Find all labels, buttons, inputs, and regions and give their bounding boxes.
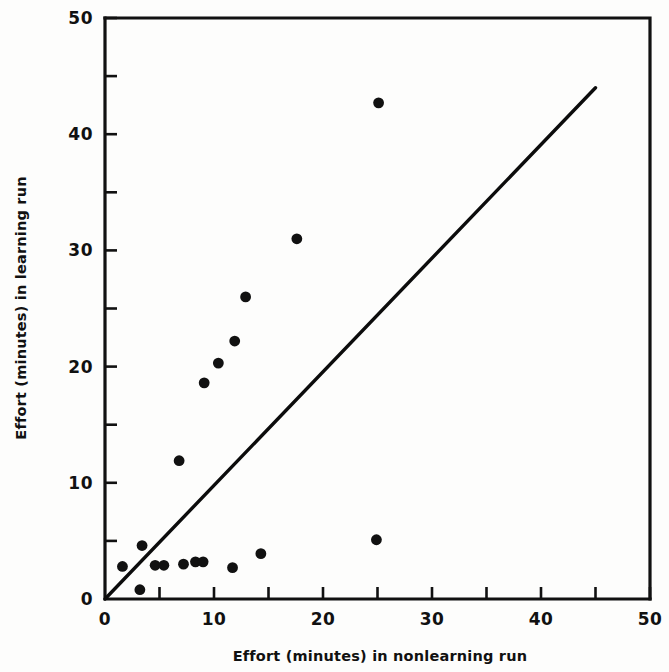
equality-reference-line xyxy=(105,88,596,599)
data-point xyxy=(255,548,266,559)
x-tick-label: 10 xyxy=(202,609,227,629)
x-tick-label: 50 xyxy=(638,609,663,629)
data-point xyxy=(291,233,302,244)
data-point xyxy=(117,561,128,572)
data-point xyxy=(137,540,148,551)
data-point xyxy=(158,560,169,571)
y-tick-label: 40 xyxy=(68,124,93,144)
y-tick-label: 50 xyxy=(68,8,93,28)
y-tick-label: 10 xyxy=(68,473,93,493)
data-point xyxy=(229,336,240,347)
y-tick-label: 0 xyxy=(81,589,93,609)
data-point xyxy=(174,455,185,466)
data-point xyxy=(371,534,382,545)
x-tick-label: 30 xyxy=(420,609,445,629)
x-tick-label: 0 xyxy=(99,609,111,629)
data-point xyxy=(178,559,189,570)
data-points-group xyxy=(117,97,384,595)
data-point xyxy=(373,97,384,108)
y-axis-tick-labels: 01020304050 xyxy=(68,8,93,609)
data-point xyxy=(213,358,224,369)
x-axis-tick-labels: 01020304050 xyxy=(99,609,663,629)
data-point xyxy=(134,584,145,595)
data-point xyxy=(227,562,238,573)
scatter-plot-figure: 01020304050 01020304050 Effort (minutes)… xyxy=(0,0,669,672)
y-tick-label: 20 xyxy=(68,357,93,377)
x-tick-label: 20 xyxy=(311,609,336,629)
y-axis-title: Effort (minutes) in learning run xyxy=(13,176,29,439)
y-tick-label: 30 xyxy=(68,240,93,260)
x-axis-title: Effort (minutes) in nonlearning run xyxy=(233,648,528,664)
data-point xyxy=(240,291,251,302)
data-point xyxy=(198,556,209,567)
plot-canvas: 01020304050 01020304050 Effort (minutes)… xyxy=(0,0,669,672)
data-point xyxy=(199,377,210,388)
x-tick-label: 40 xyxy=(529,609,554,629)
